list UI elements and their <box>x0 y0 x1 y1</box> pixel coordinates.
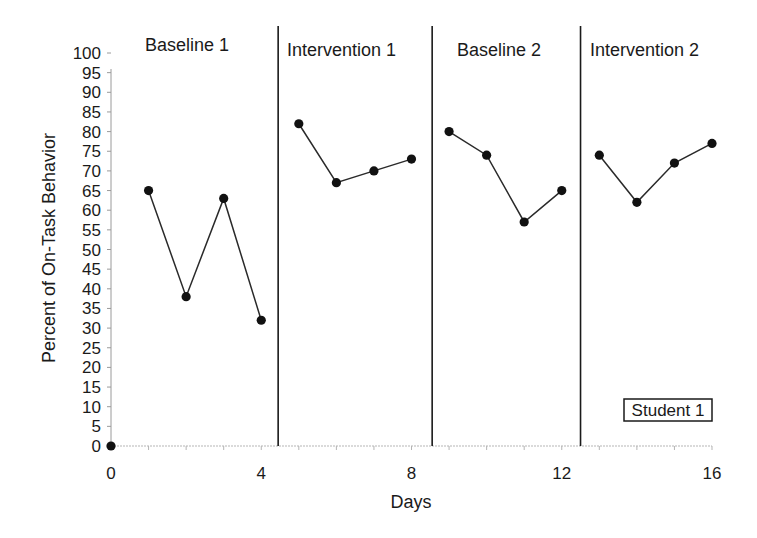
y-tick-label: 65 <box>82 182 101 201</box>
phase-data-line <box>299 124 412 183</box>
y-axis-title: Percent of On-Task Behavior <box>39 133 59 363</box>
data-point-marker <box>332 178 341 187</box>
data-point-marker <box>219 194 228 203</box>
y-tick-label: 25 <box>82 339 101 358</box>
y-tick-label: 5 <box>92 417 101 436</box>
x-tick-label: 8 <box>407 464 416 483</box>
y-tick-label: 70 <box>82 162 101 181</box>
data-point-marker <box>557 186 566 195</box>
data-point-marker <box>595 151 604 160</box>
phase-label-intervention-1: Intervention 1 <box>287 40 396 60</box>
y-tick-label: 60 <box>82 201 101 220</box>
x-tick-label: 0 <box>106 464 115 483</box>
phase-change-lines <box>278 26 580 446</box>
y-tick-label: 40 <box>82 280 101 299</box>
y-tick-label: 35 <box>82 299 101 318</box>
y-tick-label: 10 <box>82 398 101 417</box>
x-tick-label: 12 <box>552 464 571 483</box>
y-tick-label: 30 <box>82 319 101 338</box>
y-tick-label: 55 <box>82 221 101 240</box>
single-subject-line-chart: 0510152025303540455055606570758085909510… <box>0 0 757 538</box>
legend-label: Student 1 <box>632 401 705 420</box>
phase-data-line <box>149 191 262 321</box>
data-point-marker <box>444 127 453 136</box>
x-tick-label: 4 <box>257 464 266 483</box>
data-point-marker <box>257 316 266 325</box>
y-tick-label: 50 <box>82 241 101 260</box>
y-tick-label: 0 <box>92 437 101 456</box>
x-axis: 0481216 <box>106 446 721 483</box>
phase-data-line <box>449 132 562 222</box>
y-tick-label: 45 <box>82 260 101 279</box>
phase-label-intervention-2: Intervention 2 <box>590 40 699 60</box>
y-tick-label: 15 <box>82 378 101 397</box>
origin-data-point-marker <box>106 441 115 450</box>
data-point-marker <box>707 139 716 148</box>
y-axis: 0510152025303540455055606570758085909510… <box>73 44 111 456</box>
data-point-marker <box>407 155 416 164</box>
y-tick-label: 90 <box>82 83 101 102</box>
data-point-marker <box>482 151 491 160</box>
data-point-marker <box>294 119 303 128</box>
y-tick-label: 85 <box>82 103 101 122</box>
data-point-marker <box>632 198 641 207</box>
y-tick-label: 100 <box>73 44 101 63</box>
data-point-marker <box>144 186 153 195</box>
x-axis-title: Days <box>390 492 431 512</box>
data-point-marker <box>670 158 679 167</box>
data-point-marker <box>182 292 191 301</box>
legend: Student 1 <box>624 399 712 421</box>
data-point-marker <box>520 217 529 226</box>
data-point-marker <box>369 166 378 175</box>
y-tick-label: 20 <box>82 358 101 377</box>
phase-data-line <box>599 143 712 202</box>
y-tick-label: 80 <box>82 123 101 142</box>
x-tick-label: 16 <box>703 464 722 483</box>
phase-label-baseline-1: Baseline 1 <box>145 35 229 55</box>
y-tick-label: 95 <box>82 64 101 83</box>
y-tick-label: 75 <box>82 142 101 161</box>
phase-label-baseline-2: Baseline 2 <box>457 40 541 60</box>
